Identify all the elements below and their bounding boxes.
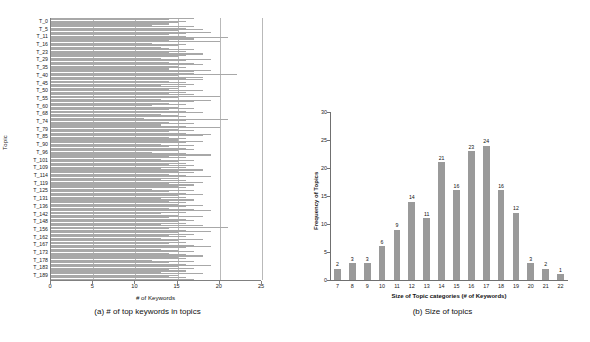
panel-a-x-axis-title: # of Keywords — [50, 294, 261, 301]
panel-b-bar: 6 — [379, 246, 386, 280]
panel-b-y-tick-mark — [327, 112, 330, 113]
panel-a-y-tick-label: T_29 — [26, 58, 48, 63]
panel-a-caption: (a) # of top keywords in topics — [0, 307, 295, 316]
panel-a-y-tick-label: T_142 — [26, 212, 48, 217]
figure-container: Topic # of Keywords (a) # of top keyword… — [0, 0, 590, 342]
panel-b-y-tick-mark — [327, 252, 330, 253]
panel-b-x-tick-label: 18 — [498, 283, 504, 289]
panel-a-y-tick-label: T_125 — [26, 189, 48, 194]
panel-a-y-tick-label: T_0 — [26, 19, 48, 24]
panel-b-y-tick-mark — [327, 140, 330, 141]
panel-b-y-tick-label: 20 — [317, 165, 327, 171]
panel-a-y-tick-label: T_5 — [26, 27, 48, 32]
panel-b-bar-value-label: 11 — [424, 212, 429, 217]
panel-b-y-tick-label: 5 — [317, 249, 327, 255]
panel-b-bar-value-label: 3 — [351, 257, 354, 262]
panel-a-y-tick-label: T_101 — [26, 158, 48, 163]
panel-a-y-tick-label: T_35 — [26, 65, 48, 70]
panel-b-bar: 11 — [423, 218, 430, 280]
panel-a-y-tick-label: T_148 — [26, 220, 48, 225]
panel-b-bar-value-label: 2 — [336, 262, 339, 267]
panel-a-y-tick-label: T_96 — [26, 150, 48, 155]
panel-b-bar-value-label: 12 — [513, 206, 519, 211]
panel-b-x-tick-label: 22 — [558, 283, 564, 289]
panel-b-x-tick-label: 12 — [409, 283, 415, 289]
panel-a-y-tick-label: T_136 — [26, 204, 48, 209]
panel-b-x-tick-label: 11 — [394, 283, 400, 289]
panel-a-y-tick-label: T_183 — [26, 266, 48, 271]
panel-b-x-tick-label: 19 — [513, 283, 519, 289]
panel-b-bar: 24 — [483, 146, 490, 280]
panel-a-y-tick-label: T_189 — [26, 274, 48, 279]
panel-b-x-tick-label: 17 — [483, 283, 489, 289]
panel-b-bar: 3 — [527, 263, 534, 280]
panel-b-bar: 3 — [364, 263, 371, 280]
panel-b-x-tick-label: 14 — [439, 283, 445, 289]
panel-b-bar-value-label: 24 — [483, 139, 489, 144]
panel-b-bar: 16 — [453, 190, 460, 280]
panel-b-x-axis-line — [330, 280, 568, 281]
panel-b-bar: 16 — [498, 190, 505, 280]
panel-b-bar-value-label: 16 — [454, 184, 460, 189]
panel-b-plot-area: 233691411211623241612321 — [330, 112, 568, 280]
panel-a-y-tick-label: T_109 — [26, 166, 48, 171]
panel-b-y-tick-label: 10 — [317, 221, 327, 227]
panel-a-y-tick-label: T_90 — [26, 143, 48, 148]
panel-b-x-tick-label: 7 — [336, 283, 339, 289]
panel-b-bar-value-label: 23 — [468, 145, 474, 150]
panel-a-y-tick-label: T_55 — [26, 96, 48, 101]
panel-a-y-tick-label: T_162 — [26, 235, 48, 240]
panel-a-y-tick-label: T_119 — [26, 181, 48, 186]
panel-a-x-tick-mark — [50, 281, 51, 284]
panel-b-y-tick-mark — [327, 168, 330, 169]
panel-b-x-tick-label: 10 — [379, 283, 385, 289]
panel-b-bar: 2 — [542, 269, 549, 280]
panel-a-y-tick-label: T_167 — [26, 243, 48, 248]
panel-b-bar-value-label: 2 — [544, 262, 547, 267]
panel-b-bar-value-label: 14 — [409, 195, 415, 200]
panel-b-bar: 21 — [438, 162, 445, 280]
panel-a-y-tick-label: T_79 — [26, 127, 48, 132]
panel-b-bar-value-label: 1 — [559, 268, 562, 273]
panel-a-y-tick-label: T_40 — [26, 73, 48, 78]
panel-b-x-tick-label: 21 — [543, 283, 549, 289]
panel-b-y-tick-label: 25 — [317, 137, 327, 143]
panel-b-y-tick-label: 0 — [317, 277, 327, 283]
panel-a-y-tick-label: T_68 — [26, 112, 48, 117]
panel-a-y-tick-label: T_173 — [26, 250, 48, 255]
panel-b-y-tick-mark — [327, 280, 330, 281]
panel-b-x-tick-label: 13 — [424, 283, 430, 289]
panel-a-plot-area — [50, 18, 261, 280]
panel-a-y-tick-label: T_131 — [26, 196, 48, 201]
panel-b-bar-value-label: 16 — [498, 184, 504, 189]
panel-b-bar-value-label: 6 — [381, 240, 384, 245]
panel-a-x-axis-line — [50, 280, 261, 281]
panel-a-gridline — [220, 18, 221, 280]
panel-a-y-tick-label: T_50 — [26, 89, 48, 94]
panel-a-y-axis-label: Topic — [2, 135, 8, 150]
panel-a-x-tick-mark — [177, 281, 178, 284]
panel-a-x-tick-mark — [92, 281, 93, 284]
panel-b-bar: 9 — [394, 230, 401, 280]
panel-b-bar-value-label: 21 — [439, 156, 445, 161]
panel-b-x-tick-label: 15 — [453, 283, 459, 289]
panel-a-y-tick-label: T_11 — [26, 35, 48, 40]
panel-b-x-tick-label: 8 — [351, 283, 354, 289]
panel-b-bar: 23 — [468, 151, 475, 280]
panel-b-y-tick-mark — [327, 224, 330, 225]
panel-b-bar: 1 — [557, 274, 564, 280]
panel-a-gridline — [262, 18, 263, 280]
panel-a-y-tick-label: T_23 — [26, 50, 48, 55]
panel-b-caption: (b) Size of topics — [295, 307, 590, 316]
panel-b-x-tick-label: 16 — [468, 283, 474, 289]
panel-a-y-tick-label: T_16 — [26, 42, 48, 47]
panel-b-bar: 2 — [334, 269, 341, 280]
panel-a-x-tick-mark — [134, 281, 135, 284]
panel-b-x-axis-title: Size of Topic categories (# of Keywords) — [330, 293, 568, 299]
panel-b-y-tick-label: 15 — [317, 193, 327, 199]
panel-a-y-tick-label: T_74 — [26, 119, 48, 124]
panel-b-bar-value-label: 9 — [395, 223, 398, 228]
panel-b-bar-value-label: 3 — [529, 257, 532, 262]
panel-b-bar: 14 — [408, 202, 415, 280]
panel-b-x-tick-label: 9 — [366, 283, 369, 289]
